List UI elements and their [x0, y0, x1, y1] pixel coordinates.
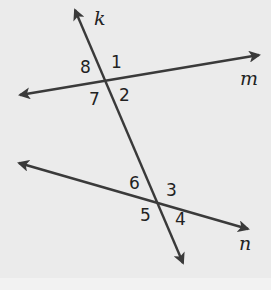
line-k: [75, 10, 183, 263]
line-m: [20, 55, 259, 95]
angle-label-4: 4: [175, 211, 186, 228]
line-label-k: k: [94, 9, 106, 28]
angle-label-1: 1: [111, 54, 122, 71]
angle-label-2: 2: [119, 87, 130, 104]
angle-label-7: 7: [89, 91, 100, 108]
angle-label-8: 8: [80, 59, 91, 76]
angle-label-5: 5: [140, 207, 151, 224]
angle-label-6: 6: [129, 175, 140, 192]
line-label-n: n: [239, 234, 251, 253]
diagram-canvas: [0, 0, 271, 290]
line-label-m: m: [240, 69, 258, 88]
angle-label-3: 3: [166, 182, 177, 199]
